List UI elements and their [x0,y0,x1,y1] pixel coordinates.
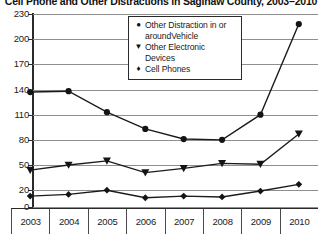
data-point [257,188,264,195]
legend-item-1: ●Other Distraction in or aroundVehicle [134,20,237,41]
series-3 [27,181,302,201]
legend-marker-icon: ▼ [134,42,143,53]
legend-item-2: ▼Other Electronic Devices [134,42,237,63]
y-axis-tick-label: 200 [3,33,29,44]
y-axis-tick-label: 20 [3,184,29,195]
x-axis-label-2008: 2008 [203,209,241,234]
data-point [65,191,72,198]
x-axis-label-2005: 2005 [88,209,126,234]
series-2 [26,131,303,177]
legend-marker-icon: ♦ [134,64,143,75]
chart-legend: ●Other Distraction in or aroundVehicle▼O… [128,16,242,80]
y-axis-tick-label: 140 [3,84,29,95]
chart-container: Cell Phone and Other Distractions in Sag… [0,0,322,235]
x-axis-label-2010: 2010 [280,209,318,234]
x-axis-label-2003: 2003 [11,209,49,234]
data-point [257,112,263,118]
series-line [30,134,299,173]
data-point [142,194,149,201]
y-axis-tick-label: 50 [3,159,29,170]
y-axis-tick-label: 170 [3,58,29,69]
legend-label: Other Electronic Devices [145,42,237,63]
y-axis-tick-label: 80 [3,134,29,145]
x-axis-label-2009: 2009 [241,209,279,234]
data-point [104,109,110,115]
legend-item-3: ♦Cell Phones [134,64,237,75]
legend-label: Cell Phones [145,64,237,75]
data-point [180,193,187,200]
data-point [219,194,226,201]
y-axis-tick-label: 230 [3,8,29,19]
chart-title: Cell Phone and Other Distractions in Sag… [0,0,322,7]
y-axis-tick-labels: 0205080110140170200230 [0,14,29,207]
data-point [65,88,71,94]
data-point [142,126,148,132]
data-point [295,181,302,188]
legend-label: Other Distraction in or aroundVehicle [145,20,237,41]
data-point [181,136,187,142]
x-axis-label-2006: 2006 [126,209,164,234]
data-point [219,137,225,143]
data-point [104,187,111,194]
y-axis-tick-label: 110 [3,109,29,120]
data-point [27,89,33,95]
x-axis-label-2004: 2004 [49,209,87,234]
legend-marker-icon: ● [134,20,143,31]
data-point [296,21,302,27]
x-axis-labels: 20032004200520062007200820092010 [11,208,318,233]
x-axis-label-2007: 2007 [165,209,203,234]
